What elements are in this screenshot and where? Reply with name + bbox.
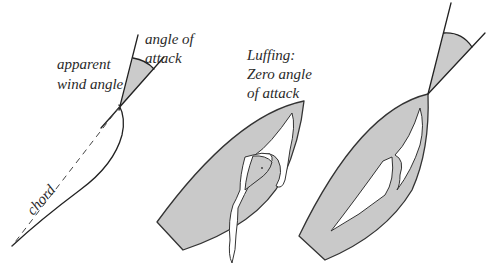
panel-right-sailing-boat: [299, 3, 485, 260]
chord-line: [12, 106, 120, 246]
label-luffing-3: of attack: [247, 85, 299, 101]
panel-middle-luffing-boat: Luffing: Zero angle of attack: [157, 47, 312, 263]
label-apparent-wind-2: wind angle: [57, 76, 124, 92]
label-chord: chord: [23, 181, 58, 218]
label-luffing-1: Luffing:: [246, 47, 295, 63]
label-apparent-wind-1: apparent: [57, 56, 111, 72]
label-luffing-2: Zero angle: [247, 66, 312, 82]
wind-angle-wedge: [428, 33, 472, 94]
sail-curve: [12, 105, 123, 246]
label-angle-of-attack-1: angle of: [145, 31, 196, 47]
hull-right: [299, 94, 428, 260]
mast-point: [261, 167, 263, 169]
sail-angle-diagram: angle of attack apparent wind angle chor…: [0, 0, 497, 269]
label-angle-of-attack-2: attack: [145, 50, 182, 66]
